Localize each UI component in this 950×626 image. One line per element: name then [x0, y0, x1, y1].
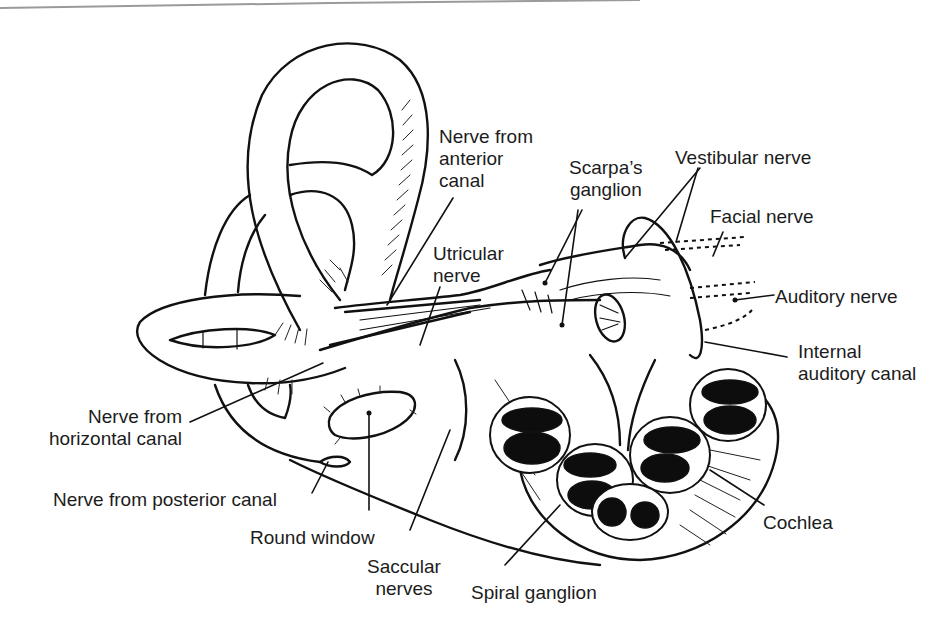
scan-edge-line [0, 0, 640, 8]
vestibular-nerve-bundle [320, 244, 690, 350]
inner-ear-diagram: Nerve from anterior canal Scarpa’s gangl… [0, 0, 950, 626]
round-window-outline [329, 392, 415, 439]
cochlea [490, 355, 778, 560]
label-spiral-ganglion: Spiral ganglion [471, 582, 597, 604]
anterior-semicircular-canal [248, 43, 428, 330]
label-utricular-nerve: Utricular nerve [433, 243, 504, 287]
label-facial-nerve: Facial nerve [710, 206, 814, 228]
label-vestibular-nerve: Vestibular nerve [675, 147, 811, 169]
label-internal-auditory-canal: Internal auditory canal [798, 341, 916, 385]
label-saccular-nerves: Saccular nerves [367, 556, 441, 600]
label-nerve-from-horizontal-canal: Nerve from horizontal canal [32, 406, 182, 450]
horizontal-semicircular-canal [137, 294, 345, 394]
label-nerve-from-anterior-canal: Nerve from anterior canal [439, 126, 533, 192]
leader-lines [190, 168, 787, 565]
label-auditory-nerve: Auditory nerve [775, 286, 898, 308]
label-cochlea: Cochlea [763, 512, 833, 534]
label-round-window: Round window [250, 527, 375, 549]
label-nerve-from-posterior-canal: Nerve from posterior canal [53, 489, 277, 511]
label-scarpas-ganglion: Scarpa’s ganglion [569, 157, 643, 201]
